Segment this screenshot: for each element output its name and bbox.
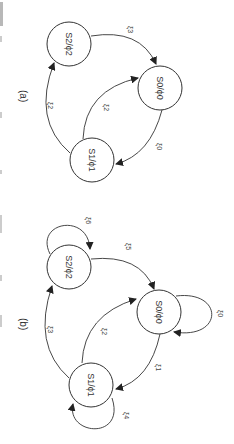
panel-a: S2/ϕ2 S0/ϕ0 S1/ϕ1 ξ3 ξ0 ξ2 ξ2 (a) <box>18 22 182 182</box>
panel-b: S2/ϕ2 S0/ϕ0 S1/ϕ1 ξ6 ξ5 ξ0 ξ1 ξ2 ξ3 ξ4 (… <box>18 217 224 429</box>
svg-text:S1/ϕ1: S1/ϕ1 <box>87 148 97 172</box>
node-s2: S2/ϕ2 <box>47 245 91 289</box>
svg-text:S2/ϕ2: S2/ϕ2 <box>64 255 74 279</box>
panel-label-b: (b) <box>18 318 29 330</box>
node-s1: S1/ϕ1 <box>70 138 114 182</box>
node-s0: S0/ϕ0 <box>138 66 182 110</box>
node-s2: S2/ϕ2 <box>47 22 91 66</box>
edge-s1-s0-inner <box>82 299 136 363</box>
edge-label-xi3-b: ξ3 <box>46 326 54 333</box>
svg-text:S1/ϕ1: S1/ϕ1 <box>86 373 96 397</box>
figure-caption <box>0 2 3 327</box>
edge-label-xi1: ξ1 <box>154 364 162 371</box>
edge-s2-s0 <box>91 35 156 64</box>
edge-label-xi5: ξ5 <box>124 243 132 250</box>
edge-label-xi2-a-outer: ξ2 <box>46 102 54 109</box>
edge-label-xi2-a-inner: ξ2 <box>102 104 110 111</box>
edge-label-xi2-b: ξ2 <box>100 328 108 335</box>
svg-text:S0/ϕ0: S0/ϕ0 <box>154 300 164 324</box>
svg-text:S2/ϕ2: S2/ϕ2 <box>64 32 74 56</box>
edge-label-xi4: ξ4 <box>122 412 130 419</box>
edge-s0-s1 <box>116 334 160 389</box>
panel-label-a: (a) <box>18 90 29 102</box>
edge-label-xi0-b: ξ0 <box>216 310 224 317</box>
svg-text:S0/ϕ0: S0/ϕ0 <box>155 76 165 100</box>
node-s0: S0/ϕ0 <box>137 290 181 334</box>
edge-label-xi6: ξ6 <box>84 217 92 224</box>
state-diagram: S2/ϕ2 S0/ϕ0 S1/ϕ1 ξ3 ξ0 ξ2 ξ2 (a) S2/ϕ2 <box>0 0 234 444</box>
edge-label-xi0-a: ξ0 <box>155 143 163 150</box>
edge-label-xi3-a: ξ3 <box>126 26 134 33</box>
edge-s0-s1 <box>116 110 162 164</box>
node-s1: S1/ϕ1 <box>69 363 113 407</box>
edge-s2-s0 <box>91 258 154 289</box>
